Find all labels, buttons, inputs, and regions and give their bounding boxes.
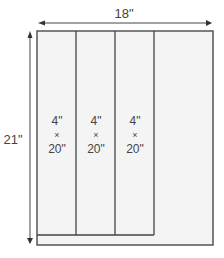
width-label: 18" [114, 6, 133, 21]
width-arrow-left-head [38, 21, 45, 26]
panel-2-times: × [93, 130, 98, 140]
outer-rectangle [37, 31, 213, 245]
panel-1-times: × [54, 130, 59, 140]
panel-1-width: 4" [52, 114, 63, 128]
panel-2-height: 20" [87, 142, 105, 156]
panel-3-height: 20" [126, 142, 144, 156]
panel-3-width: 4" [130, 114, 141, 128]
height-label: 21" [3, 132, 22, 147]
height-arrow-top-head [28, 31, 33, 38]
panel-2-width: 4" [91, 114, 102, 128]
quilt-layout-diagram: 18" 21" 4" × 20" 4" × 20" 4" × 20" [0, 0, 224, 258]
panel-3-times: × [132, 130, 137, 140]
panel-1-height: 20" [48, 142, 66, 156]
